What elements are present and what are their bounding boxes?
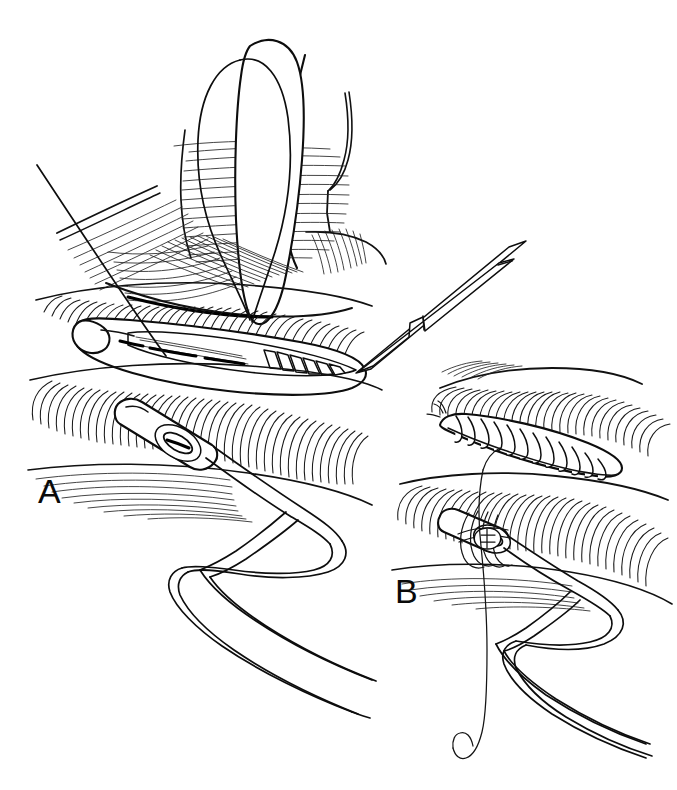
illustration-canvas: A	[0, 0, 677, 790]
panel-a-label: A	[38, 472, 61, 510]
panel-b-label: B	[395, 572, 418, 610]
surgical-figure: A	[0, 0, 677, 790]
